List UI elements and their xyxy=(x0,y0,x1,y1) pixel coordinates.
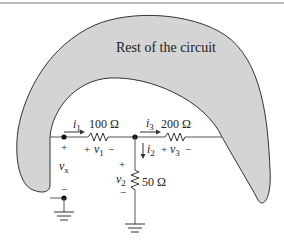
resistor-100-ohm xyxy=(88,133,108,141)
vx-plus: + xyxy=(61,141,67,153)
resistor-200-ohm xyxy=(165,133,185,141)
vx-minus: − xyxy=(61,183,67,195)
arrow-down-icon xyxy=(141,143,146,159)
v1-plus: + xyxy=(84,143,90,155)
current-i1-label: i1 xyxy=(73,117,81,133)
voltage-vx-label: vx xyxy=(59,159,69,175)
circuit-diagram: Rest of the circuit i1 100 Ω + xyxy=(0,0,284,244)
v1-minus: − xyxy=(108,143,114,155)
node-left xyxy=(61,134,66,139)
v2-plus: + xyxy=(119,158,125,170)
ground-icon xyxy=(125,224,145,232)
current-i3-label: i3 xyxy=(146,116,154,132)
resistor-100-value: 100 Ω xyxy=(89,117,119,131)
resistor-200-value: 200 Ω xyxy=(161,117,191,131)
voltage-v1-label: v1 xyxy=(94,142,104,158)
current-i2-label: i2 xyxy=(147,142,155,158)
v3-plus: + xyxy=(161,143,167,155)
resistor-50-value: 50 Ω xyxy=(142,175,166,189)
v3-minus: − xyxy=(185,143,191,155)
resistor-50-ohm xyxy=(131,170,139,190)
region-label: Rest of the circuit xyxy=(116,40,216,55)
voltage-v3-label: v3 xyxy=(170,142,180,158)
v2-minus: − xyxy=(120,186,126,198)
ground-icon xyxy=(54,212,74,220)
